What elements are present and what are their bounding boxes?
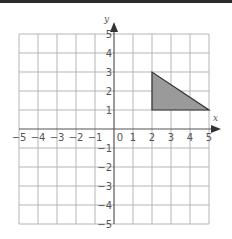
x-tick-label: 2 xyxy=(149,132,155,143)
y-tick-label: 1 xyxy=(106,105,112,116)
x-tick-label: 1 xyxy=(130,132,136,143)
x-tick-label: −2 xyxy=(69,132,84,143)
y-axis-label: y xyxy=(103,14,110,24)
x-tick-label: −5 xyxy=(12,132,27,143)
coordinate-plane: xy−5−4−3−2−101234554321−1−2−3−4−5 xyxy=(0,0,232,239)
x-tick-label: −1 xyxy=(88,132,103,143)
y-tick-label: −2 xyxy=(97,162,112,173)
y-tick-label: 2 xyxy=(106,86,112,97)
y-tick-label: −4 xyxy=(97,200,112,211)
x-tick-label: −4 xyxy=(31,132,46,143)
y-tick-label: −5 xyxy=(97,219,112,230)
x-axis-label: x xyxy=(213,113,218,123)
y-tick-label: 5 xyxy=(106,29,112,40)
x-axis-arrow-icon xyxy=(211,125,221,133)
y-tick-label: −1 xyxy=(97,143,112,154)
y-tick-label: −3 xyxy=(97,181,112,192)
x-tick-label: 0 xyxy=(117,132,123,143)
x-tick-label: 3 xyxy=(168,132,174,143)
x-tick-label: 5 xyxy=(206,132,212,143)
x-tick-label: −3 xyxy=(50,132,65,143)
y-tick-label: 3 xyxy=(106,67,112,78)
x-tick-label: 4 xyxy=(187,132,193,143)
y-tick-label: 4 xyxy=(106,48,112,59)
